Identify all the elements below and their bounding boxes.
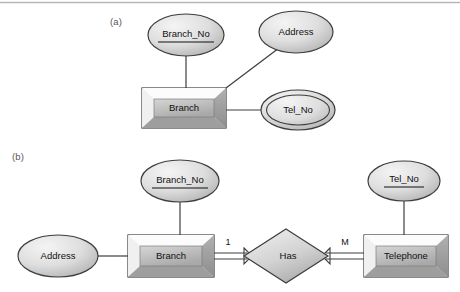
entity-branch-a-label: Branch (169, 102, 199, 113)
entity-branch-a[interactable]: Branch (142, 88, 226, 128)
attribute-tel-no-a-label: Tel_No (283, 104, 313, 115)
attribute-address-b-label: Address (41, 250, 76, 261)
entity-branch-b[interactable]: Branch (128, 235, 214, 277)
cardinality-branch-has: 1 (225, 237, 230, 247)
attribute-branch-no-b-label: Branch_No (156, 174, 204, 185)
attribute-address-b[interactable]: Address (18, 235, 98, 277)
attribute-branch-no-a-label: Branch_No (162, 28, 210, 39)
attribute-address-a[interactable]: Address (259, 11, 333, 53)
entity-telephone[interactable]: Telephone (364, 235, 448, 277)
attribute-branch-no-a[interactable]: Branch_No (148, 14, 224, 56)
panel-a: Branch Branch_No Address Tel_No (142, 11, 335, 130)
bevel-top (364, 235, 448, 246)
bevel-bottom (142, 117, 226, 128)
panel-b: 1 M Branch Telephone (18, 160, 448, 283)
relationship-has[interactable]: Has (244, 229, 328, 283)
attribute-tel-no-b-label: Tel_No (389, 173, 419, 184)
cardinality-has-telephone: M (341, 237, 349, 247)
edge-address-branch (226, 48, 279, 88)
relationship-has-label: Has (280, 250, 297, 261)
attribute-tel-no-b[interactable]: Tel_No (368, 161, 440, 201)
er-diagram-canvas: Branch Branch_No Address Tel_No (0, 0, 460, 292)
bevel-bottom (128, 266, 214, 277)
bevel-bottom (364, 266, 448, 277)
attribute-branch-no-b[interactable]: Branch_No (141, 160, 219, 202)
bevel-top (128, 235, 214, 246)
entity-branch-b-label: Branch (156, 250, 186, 261)
bevel-top (142, 88, 226, 99)
attribute-address-a-label: Address (279, 26, 314, 37)
entity-telephone-label: Telephone (384, 250, 428, 261)
attribute-tel-no-a[interactable]: Tel_No (261, 90, 335, 130)
